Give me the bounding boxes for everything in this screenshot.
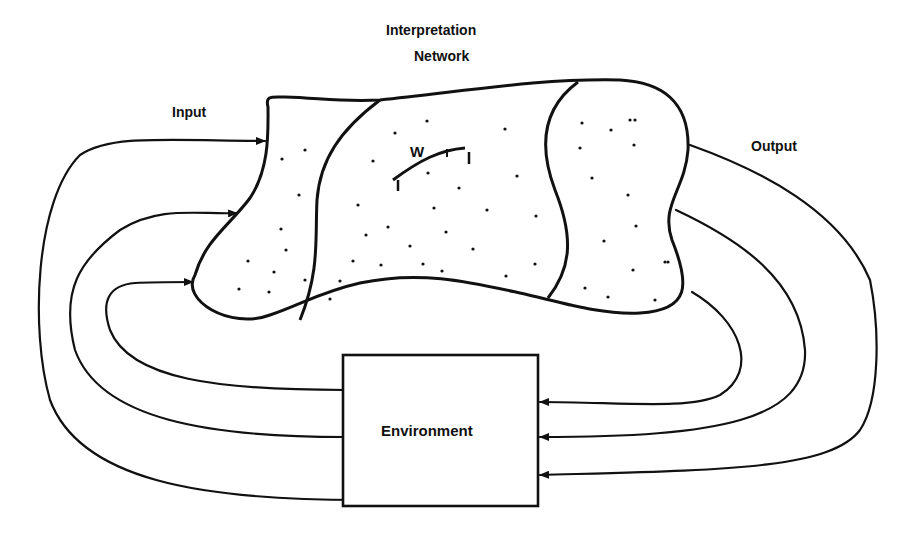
network-blob	[192, 80, 688, 319]
title-line-2: Network	[414, 48, 469, 64]
weight-connection	[393, 148, 465, 180]
title-line-1: Interpretation	[386, 22, 476, 38]
output-layer-divider	[546, 82, 578, 298]
weight-label: W	[410, 143, 424, 160]
output-units	[578, 118, 669, 301]
output-label: Output	[751, 138, 797, 154]
input-units	[237, 148, 306, 293]
diagram-canvas	[0, 0, 904, 535]
environment-label: Environment	[381, 422, 473, 439]
output-loop-3	[540, 292, 741, 404]
input-label: Input	[172, 104, 206, 120]
weight-symbol: W	[410, 143, 424, 160]
input-loop-1	[39, 140, 360, 500]
hidden-units	[328, 119, 537, 300]
